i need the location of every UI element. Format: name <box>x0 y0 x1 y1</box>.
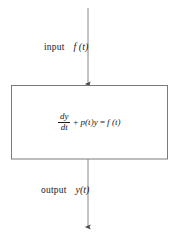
output-label: output y(t) <box>41 184 89 195</box>
plus-operator: + <box>73 117 78 127</box>
equals-operator: = <box>100 117 105 127</box>
input-label: input f (t) <box>44 41 88 52</box>
input-label-word: input <box>44 42 65 52</box>
diagram-canvas: input f (t) dy dt + p(t)y = f (t) output… <box>0 0 178 236</box>
equation-second-term: p(t)y <box>80 117 98 127</box>
equation-right-side: f (t) <box>107 117 121 127</box>
fraction-numerator: dy <box>59 112 70 122</box>
input-label-symbol: f (t) <box>74 41 89 52</box>
derivative-fraction: dy dt <box>58 112 70 132</box>
output-label-symbol: y(t) <box>75 184 89 195</box>
block-equation: dy dt + p(t)y = f (t) <box>11 85 168 159</box>
fraction-denominator: dt <box>60 123 69 133</box>
output-label-word: output <box>41 185 66 195</box>
